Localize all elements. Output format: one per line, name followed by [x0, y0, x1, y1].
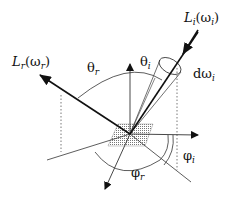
- phi-i-arc: [160, 135, 168, 160]
- phi-r-label: φr: [131, 165, 145, 182]
- solid-angle-label: dωi: [193, 66, 215, 83]
- theta-i-label: θi: [140, 54, 151, 71]
- surface-patch: [108, 124, 153, 146]
- tangent-line-left: [47, 134, 130, 160]
- phi-i-label: φi: [183, 148, 195, 165]
- theta-r-label: θr: [87, 60, 100, 77]
- incident-ray-arrow: [183, 30, 198, 54]
- incident-radiance-label: Li(ωi): [183, 10, 219, 27]
- phi-r-arc: [95, 152, 160, 171]
- reflected-radiance-label: Lr(ωr): [11, 54, 50, 71]
- brdf-diagram: Li(ωi) Lr(ωr) θr θi dωi φi φr: [0, 0, 235, 197]
- cone-edge-right: [130, 72, 181, 134]
- reflected-ray-arrow: [40, 75, 130, 134]
- theta-r-arc: [78, 72, 162, 98]
